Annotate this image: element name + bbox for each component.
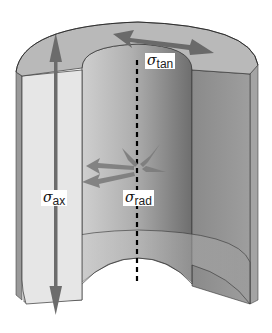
- label-sigma-ax: σax: [41, 190, 67, 206]
- subscript-tan: tan: [157, 57, 174, 71]
- sigma-symbol: σ: [43, 189, 53, 205]
- subscript-ax: ax: [53, 194, 66, 208]
- outer-wall-right: [250, 65, 258, 304]
- label-sigma-rad: σrad: [123, 190, 154, 206]
- label-sigma-tan: σtan: [145, 53, 175, 69]
- left-cut-face: [22, 70, 82, 304]
- sigma-symbol: σ: [125, 189, 135, 205]
- subscript-rad: rad: [135, 194, 152, 208]
- outer-wall-left: [16, 72, 22, 300]
- sigma-symbol: σ: [147, 52, 157, 68]
- cylinder-stress-diagram: [0, 0, 272, 333]
